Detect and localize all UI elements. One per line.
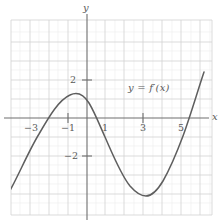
x-axis-label: x — [212, 112, 218, 122]
x-tick-label-1: 1 — [102, 123, 108, 133]
y-tick-label-2: 2 — [70, 75, 76, 85]
derivative-curve — [7, 72, 204, 196]
x-tick-label-minus1: −1 — [61, 123, 75, 133]
y-axis-label: y — [83, 3, 89, 13]
x-tick-label-minus3: −3 — [24, 123, 38, 133]
graph-figure: y x y = f′(x) −3 −1 1 3 5 2 −2 — [0, 0, 223, 223]
y-tick-label-minus2: −2 — [64, 151, 78, 161]
graph-canvas — [0, 0, 223, 223]
curve-equation-label: y = f′(x) — [128, 83, 170, 93]
x-tick-label-3: 3 — [140, 123, 146, 133]
x-tick-label-5: 5 — [178, 123, 184, 133]
